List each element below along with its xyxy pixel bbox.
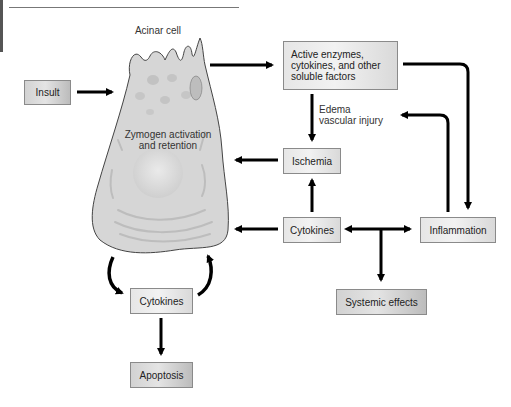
node-cytokines-main: Cytokines <box>283 217 341 243</box>
node-cytokines-loop-label: Cytokines <box>140 296 184 307</box>
acinar-cell-label: Acinar cell <box>128 25 188 37</box>
active-factors-line-2: cytokines, and other <box>291 60 381 71</box>
active-factors-line-3: soluble factors <box>291 71 381 82</box>
node-systemic-effects-label: Systemic effects <box>345 297 418 308</box>
node-ischemia-label: Ischemia <box>292 156 332 167</box>
edema-line-1: Edema <box>319 104 383 115</box>
node-inflammation: Inflammation <box>420 217 496 243</box>
node-inflammation-label: Inflammation <box>429 225 486 236</box>
node-apoptosis: Apoptosis <box>130 362 193 388</box>
node-cytokines-loop: Cytokines <box>130 288 193 314</box>
node-insult-label: Insult <box>36 87 60 98</box>
edema-line-2: vascular injury <box>319 115 383 126</box>
zymogen-line-1: Zymogen activation <box>118 129 218 140</box>
node-active-factors: Active enzymes, cytokines, and other sol… <box>283 41 398 90</box>
node-cytokines-main-label: Cytokines <box>290 225 334 236</box>
node-systemic-effects: Systemic effects <box>336 289 427 315</box>
zymogen-line-2: and retention <box>118 140 218 151</box>
node-apoptosis-label: Apoptosis <box>140 370 184 381</box>
diagram-graphics <box>0 0 511 407</box>
node-ischemia: Ischemia <box>283 148 341 174</box>
edema-label: Edema vascular injury <box>319 104 383 126</box>
zymogen-label: Zymogen activation and retention <box>118 129 218 151</box>
active-factors-line-1: Active enzymes, <box>291 49 381 60</box>
node-insult: Insult <box>24 80 71 105</box>
